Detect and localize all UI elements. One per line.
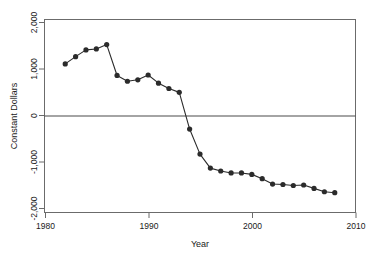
data-point bbox=[114, 73, 119, 78]
data-point bbox=[166, 86, 171, 91]
x-tick-label-1990: 1990 bbox=[140, 221, 159, 231]
y-axis-ticks bbox=[39, 23, 45, 209]
x-tick-label-2000: 2000 bbox=[243, 221, 262, 231]
data-point bbox=[135, 77, 140, 82]
y-tick-label-1000: 1,000 bbox=[29, 58, 39, 80]
x-tick-label-2010: 2010 bbox=[347, 221, 366, 231]
data-point bbox=[332, 190, 337, 195]
data-point bbox=[218, 168, 223, 173]
data-point bbox=[187, 126, 192, 131]
x-axis-title: Year bbox=[191, 239, 209, 249]
y-tick-label-2000: 2,000 bbox=[29, 12, 39, 34]
data-point bbox=[280, 182, 285, 187]
data-point bbox=[63, 61, 68, 66]
data-point bbox=[208, 166, 213, 171]
data-point bbox=[322, 189, 327, 194]
data-point bbox=[291, 183, 296, 188]
chart-container: 2,000 1,000 0 -1,000 -2,000 Constant Dol… bbox=[0, 0, 378, 260]
data-point bbox=[239, 170, 244, 175]
data-point bbox=[146, 72, 151, 77]
data-point bbox=[311, 186, 316, 191]
data-point bbox=[249, 172, 254, 177]
data-point bbox=[301, 182, 306, 187]
data-point bbox=[104, 42, 109, 47]
data-point bbox=[197, 152, 202, 157]
data-point bbox=[83, 47, 88, 52]
x-tick-label-1980: 1980 bbox=[36, 221, 55, 231]
y-axis-tick-labels: 2,000 1,000 0 -1,000 -2,000 bbox=[29, 12, 39, 221]
x-axis-tick-labels: 1980 1990 2000 2010 bbox=[36, 221, 366, 231]
data-point bbox=[229, 170, 234, 175]
data-point bbox=[260, 176, 265, 181]
data-point bbox=[73, 54, 78, 59]
data-point bbox=[177, 90, 182, 95]
data-point bbox=[94, 46, 99, 51]
series-markers bbox=[63, 42, 338, 195]
y-tick-label-0: 0 bbox=[29, 113, 39, 118]
data-point bbox=[125, 79, 130, 84]
x-axis-ticks bbox=[46, 213, 357, 219]
data-point bbox=[156, 81, 161, 86]
series-line-constant-dollars bbox=[65, 45, 335, 193]
line-chart: 2,000 1,000 0 -1,000 -2,000 Constant Dol… bbox=[0, 0, 378, 260]
data-point bbox=[270, 181, 275, 186]
y-tick-label-neg1000: -1,000 bbox=[29, 150, 39, 174]
y-tick-label-neg2000: -2,000 bbox=[29, 196, 39, 220]
y-axis-title: Constant Dollars bbox=[9, 82, 19, 149]
